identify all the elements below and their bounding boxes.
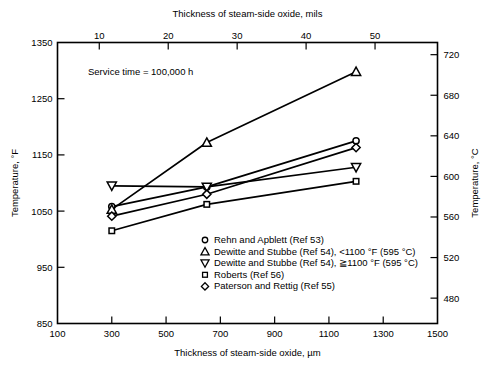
series-line — [112, 72, 356, 210]
y-axis-tick-label: 1250 — [31, 93, 52, 104]
legend-label: Roberts (Ref 56) — [214, 269, 284, 280]
legend-marker-diamond — [201, 283, 208, 290]
data-point-triangle-up — [351, 67, 360, 75]
legend-marker-square — [203, 272, 208, 277]
data-point-diamond — [352, 143, 360, 151]
y-axis-right-tick-label: 600 — [444, 171, 460, 182]
x-axis-top-title: Thickness of steam-side oxide, mils — [173, 8, 323, 19]
x-axis-top-tick-label: 10 — [94, 30, 105, 41]
legend-marker-triangle-down — [201, 260, 209, 267]
x-axis-tick-label: 1500 — [427, 328, 448, 339]
x-axis-tick-label: 300 — [104, 328, 120, 339]
y-axis-tick-label: 1350 — [31, 37, 52, 48]
legend-marker-triangle-up — [201, 248, 209, 255]
x-axis-tick-label: 500 — [158, 328, 174, 339]
y-axis-tick-label: 1050 — [31, 206, 52, 217]
series-line — [112, 148, 356, 217]
data-point-diamond — [203, 190, 211, 198]
y-axis-right-title: Temperature, °C — [469, 148, 480, 217]
y-axis-tick-label: 950 — [37, 262, 53, 273]
x-axis-tick-label: 1300 — [373, 328, 394, 339]
chart-figure: 1003005007009001100130015001020304050850… — [0, 0, 494, 371]
y-axis-tick-label: 1150 — [32, 149, 52, 160]
x-axis-top-tick-label: 50 — [370, 30, 381, 41]
data-point-square — [109, 228, 115, 234]
y-axis-right-tick-label: 480 — [444, 293, 460, 304]
data-point-triangle-up — [202, 138, 211, 146]
x-axis-top-tick-label: 20 — [163, 30, 174, 41]
y-axis-right-tick-label: 640 — [444, 130, 460, 141]
data-point-square — [353, 179, 359, 185]
legend-label: Dewitte and Stubbe (Ref 54), <1100 °F (5… — [214, 246, 416, 257]
series-line — [112, 181, 356, 230]
y-axis-tick-label: 850 — [37, 318, 53, 329]
service-time-annotation: Service time = 100,000 h — [88, 66, 193, 77]
x-axis-tick-label: 700 — [212, 328, 228, 339]
x-axis-top-tick-label: 40 — [301, 30, 312, 41]
x-axis-tick-label: 900 — [267, 328, 283, 339]
x-axis-title: Thickness of steam-side oxide, µm — [174, 347, 321, 358]
y-axis-right-tick-label: 720 — [444, 49, 460, 60]
y-axis-title: Temperature, °F — [9, 149, 20, 217]
series-line — [112, 141, 356, 207]
y-axis-right-tick-label: 680 — [444, 90, 460, 101]
x-axis-top-tick-label: 30 — [232, 30, 243, 41]
x-axis-tick-label: 1100 — [319, 328, 339, 339]
legend-marker-circle — [202, 237, 207, 242]
legend-label: Dewitte and Stubbe (Ref 54), ≧1100 °F (5… — [214, 257, 418, 268]
y-axis-right-tick-label: 560 — [444, 211, 460, 222]
y-axis-right-tick-label: 520 — [444, 252, 460, 263]
x-axis-tick-label: 100 — [50, 328, 66, 339]
legend-label: Paterson and Rettig (Ref 55) — [214, 280, 335, 291]
data-point-square — [204, 202, 210, 208]
oxide-thickness-temperature-chart: 1003005007009001100130015001020304050850… — [0, 0, 494, 371]
legend-label: Rehn and Apblett (Ref 53) — [214, 234, 324, 245]
